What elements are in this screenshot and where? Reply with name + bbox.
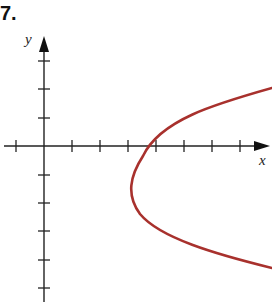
y-axis-arrow-icon [39, 36, 49, 52]
x-axis-label: x [258, 152, 266, 168]
y-axis: y [23, 31, 50, 302]
y-axis-label: y [23, 31, 32, 47]
x-axis-arrow-icon [254, 141, 270, 151]
parabola-curve [131, 88, 272, 268]
graph: x y [0, 0, 272, 305]
